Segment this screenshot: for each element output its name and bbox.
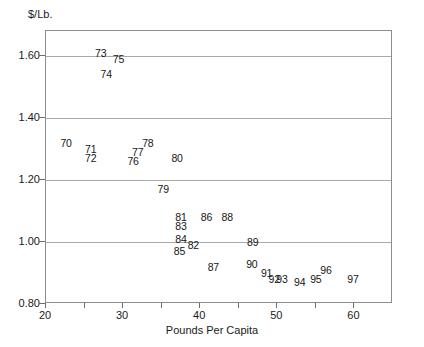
data-point-label: 83 [175, 220, 186, 232]
gridline [46, 242, 391, 243]
y-axis-title: $/Lb. [28, 8, 52, 20]
x-tick-mark [238, 303, 239, 308]
y-tick-label: 0.80 [0, 297, 40, 309]
y-tick-label: 1.60 [0, 49, 40, 61]
y-tick-mark [39, 179, 45, 180]
data-point-label: 88 [222, 211, 233, 223]
data-point-label: 85 [174, 245, 185, 257]
x-tick-mark [84, 303, 85, 308]
data-point-label: 90 [246, 258, 257, 270]
x-tick-mark [315, 303, 316, 308]
y-tick-label: 1.20 [0, 173, 40, 185]
y-tick-mark [39, 55, 45, 56]
data-point-label: 97 [347, 273, 358, 285]
data-point-label: 73 [95, 47, 106, 59]
gridline [46, 118, 391, 119]
x-tick-label: 30 [102, 309, 142, 321]
plot-area: 7071727374757677787980818283848586878889… [45, 30, 392, 303]
x-tick-label: 40 [179, 309, 219, 321]
x-tick-mark [276, 303, 277, 308]
x-tick-mark [45, 303, 46, 308]
x-tick-mark [199, 303, 200, 308]
data-point-label: 84 [175, 233, 186, 245]
data-point-label: 79 [158, 183, 169, 195]
data-point-label: 80 [171, 152, 182, 164]
data-point-label: 86 [201, 211, 212, 223]
scatter-chart: $/Lb. 7071727374757677787980818283848586… [0, 0, 424, 347]
x-axis-title: Pounds Per Capita [0, 324, 424, 336]
data-point-label: 89 [247, 236, 258, 248]
data-point-label: 82 [188, 239, 199, 251]
x-tick-mark [122, 303, 123, 308]
y-tick-label: 1.40 [0, 111, 40, 123]
x-tick-label: 20 [25, 309, 65, 321]
data-point-label: 94 [294, 276, 305, 288]
x-tick-mark [353, 303, 354, 308]
data-point-label: 87 [208, 261, 219, 273]
y-tick-label: 1.00 [0, 235, 40, 247]
data-point-label: 78 [142, 137, 153, 149]
data-point-label: 75 [113, 53, 124, 65]
data-point-label: 74 [101, 68, 112, 80]
data-point-label: 70 [60, 137, 71, 149]
data-point-label: 96 [320, 264, 331, 276]
gridline [46, 180, 391, 181]
x-tick-mark [161, 303, 162, 308]
data-point-label: 72 [85, 152, 96, 164]
y-tick-mark [39, 117, 45, 118]
x-tick-label: 50 [256, 309, 296, 321]
x-tick-label: 60 [333, 309, 373, 321]
y-tick-mark [39, 241, 45, 242]
data-point-label: 93 [276, 273, 287, 285]
